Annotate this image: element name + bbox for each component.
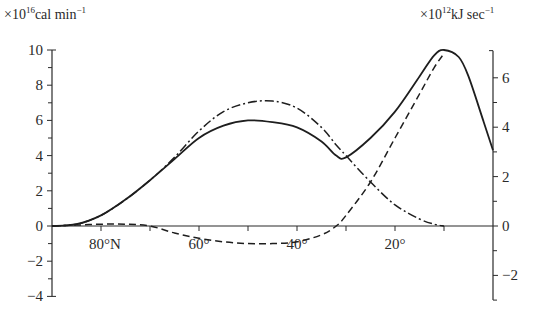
left-axis-tick-label: 2	[36, 183, 44, 199]
right-y-axis: 6420−2	[489, 51, 518, 300]
right-axis-tick-label: 2	[502, 169, 510, 185]
series-dashdot-line	[52, 101, 444, 226]
left-axis-tick-label: 6	[36, 112, 44, 128]
right-axis-unit-label: ×1012kJ sec−1	[420, 5, 494, 22]
left-axis-tick-label: 4	[36, 148, 44, 164]
right-axis-tick-label: 4	[502, 119, 510, 135]
x-axis-tick-label: 80°N	[89, 236, 121, 252]
right-axis-tick-label: 6	[502, 70, 510, 86]
right-axis-tick-label: −2	[502, 267, 518, 283]
chart-canvas: ×1016cal min−1 ×1012kJ sec−1 1086420−2−4…	[0, 0, 545, 321]
left-axis-tick-label: 0	[36, 218, 44, 234]
left-axis-tick-label: −2	[27, 253, 43, 269]
data-series	[52, 50, 493, 244]
series-solid-line	[52, 50, 493, 226]
left-axis-tick-label: −4	[27, 288, 43, 304]
series-dashed-line	[52, 54, 444, 244]
left-axis-tick-label: 8	[36, 77, 44, 93]
right-axis-tick-label: 0	[502, 218, 510, 234]
left-y-axis: 1086420−2−4	[27, 42, 56, 304]
left-axis-tick-label: 10	[28, 42, 43, 58]
x-axis-tick-label: 20°	[385, 236, 406, 252]
x-axis-tick-label: 40°	[287, 236, 308, 252]
left-axis-unit-label: ×1016cal min−1	[4, 5, 86, 22]
x-axis: 80°N60°40°20°	[52, 226, 493, 252]
